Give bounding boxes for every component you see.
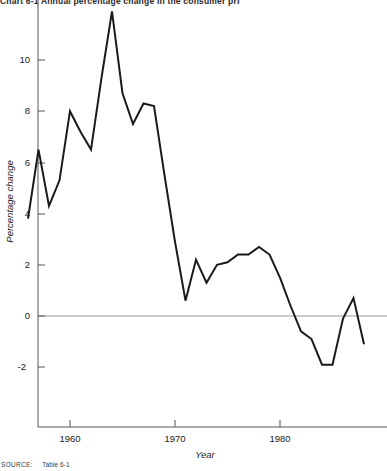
chart-figure: Chart 6-1 Annual percentage change in th… — [0, 0, 387, 471]
y-tick-label-10: 10 — [8, 54, 30, 65]
y-tick-label-8: 8 — [8, 105, 30, 116]
source-note: SOURCE: Table 6-1 — [1, 461, 70, 468]
x-axis-ticks — [70, 420, 280, 427]
data-series-line — [28, 11, 364, 364]
x-tick-label-1960: 1960 — [50, 433, 90, 444]
x-tick-label-1970: 1970 — [155, 433, 195, 444]
x-axis-title: Year — [175, 449, 235, 460]
y-axis-title: Percentage change — [4, 142, 15, 262]
y-tick-label-neg2: -2 — [4, 361, 26, 372]
x-tick-label-1980: 1980 — [260, 433, 300, 444]
y-axis-ticks — [38, 60, 45, 367]
source-value: Table 6-1 — [42, 461, 70, 468]
y-tick-label-0: 0 — [8, 310, 30, 321]
line-chart-plot — [0, 0, 387, 471]
source-label: SOURCE: — [1, 461, 33, 468]
